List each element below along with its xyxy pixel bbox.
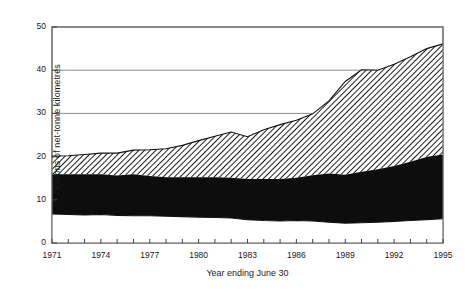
x-tick-label: 1971 xyxy=(32,250,72,260)
chart-container: Billions of net-tonne kilometres Year en… xyxy=(0,0,475,292)
x-tick-label: 1974 xyxy=(81,250,121,260)
y-axis-title: Billions of net-tonne kilometres xyxy=(52,32,62,222)
x-tick-label: 1992 xyxy=(374,250,414,260)
y-tick-label: 0 xyxy=(20,237,46,247)
y-tick-label: 10 xyxy=(20,194,46,204)
y-tick-label: 20 xyxy=(20,151,46,161)
x-tick-label: 1983 xyxy=(228,250,268,260)
x-axis-title: Year ending June 30 xyxy=(52,268,443,278)
x-tick-label: 1977 xyxy=(130,250,170,260)
y-axis-title-wrap: Billions of net-tonne kilometres xyxy=(22,62,36,232)
x-tick-label: 1986 xyxy=(276,250,316,260)
chart-svg xyxy=(0,0,475,292)
y-tick-label: 40 xyxy=(20,64,46,74)
x-tick-label: 1995 xyxy=(423,250,463,260)
x-tick-label: 1980 xyxy=(179,250,219,260)
x-tick-label: 1989 xyxy=(325,250,365,260)
y-tick-label: 30 xyxy=(20,107,46,117)
y-tick-label: 50 xyxy=(20,21,46,31)
